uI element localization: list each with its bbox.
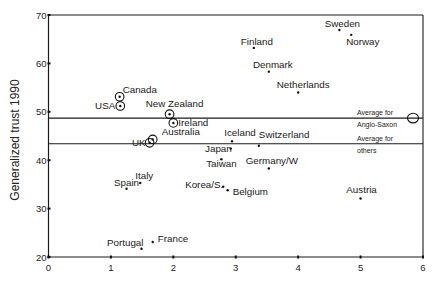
point-marker xyxy=(148,142,150,144)
point-marker xyxy=(268,167,270,169)
point-marker xyxy=(125,188,127,190)
point-label: France xyxy=(158,233,189,244)
x-tick-mark xyxy=(235,256,237,259)
point-marker xyxy=(168,113,170,115)
point-uk: UK xyxy=(132,137,154,148)
point-germany-w: Germany/W xyxy=(246,155,299,169)
x-tick-label: 3 xyxy=(233,262,238,273)
reference-label-others-line1: Average for xyxy=(357,135,394,143)
point-marker xyxy=(118,96,120,98)
y-tick-mark xyxy=(48,208,51,210)
point-label: Germany/W xyxy=(246,155,299,166)
y-tick-mark xyxy=(48,256,51,258)
point-sweden: Sweden xyxy=(325,18,360,31)
point-marker xyxy=(152,241,154,243)
y-tick-label: 60 xyxy=(36,58,47,69)
y-tick-label: 20 xyxy=(36,252,47,263)
point-france: France xyxy=(152,233,189,244)
point-label: Taiwan xyxy=(206,158,237,169)
y-tick-mark xyxy=(48,62,51,64)
x-tick-mark xyxy=(422,256,424,259)
data-points: SwedenNorwayFinlandDenmarkNetherlandsCan… xyxy=(95,18,379,250)
y-tick-label: 70 xyxy=(36,10,47,21)
point-austria: Austria xyxy=(346,184,377,199)
point-marker xyxy=(268,70,270,72)
x-tick-label: 5 xyxy=(358,262,363,273)
reference-label-anglo-saxon-line2: Anglo-Saxon xyxy=(357,121,397,129)
point-marker xyxy=(226,189,228,191)
point-netherlands: Netherlands xyxy=(277,79,330,93)
point-marker xyxy=(258,144,260,146)
point-japan: Japan xyxy=(205,143,232,154)
y-tick-label: 40 xyxy=(36,155,47,166)
point-iceland: Iceland xyxy=(224,127,256,142)
point-label: Canada xyxy=(123,84,158,95)
point-marker xyxy=(359,197,361,199)
point-marker xyxy=(139,182,141,184)
point-label: Austria xyxy=(346,184,377,195)
point-label: Netherlands xyxy=(277,79,330,90)
reference-label-others-line2: others xyxy=(357,147,377,154)
x-tick-label: 4 xyxy=(296,262,301,273)
x-tick-label: 6 xyxy=(420,262,425,273)
point-label: Denmark xyxy=(253,59,293,70)
point-label: Italy xyxy=(135,170,153,181)
scatter-chart: 0123456203040506070 Average forAnglo-Sax… xyxy=(0,0,434,285)
point-label: Japan xyxy=(205,143,232,154)
point-belgium: Belgium xyxy=(226,186,268,197)
reference-label-anglo-saxon-line1: Average for xyxy=(357,109,394,117)
point-finland: Finland xyxy=(241,36,273,49)
y-tick-label: 30 xyxy=(36,203,47,214)
point-label: UK xyxy=(132,137,146,148)
point-taiwan: Taiwan xyxy=(206,158,237,169)
point-label: Sweden xyxy=(325,18,360,29)
y-tick-mark xyxy=(48,159,51,161)
point-norway: Norway xyxy=(346,34,379,47)
x-tick-label: 1 xyxy=(108,262,113,273)
point-portugal: Portugal xyxy=(107,237,144,250)
point-usa: USA xyxy=(95,100,124,111)
point-label: Norway xyxy=(346,36,379,47)
x-tick-mark xyxy=(360,256,362,259)
point-australia: Australia xyxy=(148,126,200,143)
point-label: Australia xyxy=(162,126,201,137)
point-label: Belgium xyxy=(233,186,268,197)
point-label: New Zealand xyxy=(146,98,204,109)
point-label: Switzerland xyxy=(259,129,310,140)
point-marker xyxy=(253,47,255,49)
point-marker xyxy=(119,105,121,107)
point-korea-s: Korea/S. xyxy=(185,179,224,190)
y-tick-mark xyxy=(48,111,51,113)
x-tick-label: 2 xyxy=(171,262,176,273)
point-label: Portugal xyxy=(107,237,144,248)
y-axis-title: Generalized trust 1990 xyxy=(8,79,22,201)
point-denmark: Denmark xyxy=(253,59,293,73)
x-tick-mark xyxy=(172,256,174,259)
point-label: Iceland xyxy=(224,127,256,138)
x-tick-mark xyxy=(297,256,299,259)
point-label: USA xyxy=(95,100,116,111)
chart-svg: 0123456203040506070 Average forAnglo-Sax… xyxy=(0,0,434,285)
point-new-zealand: New Zealand xyxy=(146,98,204,118)
point-marker xyxy=(140,248,142,250)
y-tick-label: 50 xyxy=(36,106,47,117)
y-tick-mark xyxy=(48,14,51,16)
point-marker xyxy=(172,122,174,124)
point-label: Finland xyxy=(241,36,273,47)
point-label: Korea/S. xyxy=(185,179,223,190)
x-tick-label: 0 xyxy=(46,262,51,273)
x-tick-mark xyxy=(110,256,112,259)
point-marker xyxy=(338,29,340,31)
point-marker xyxy=(297,91,299,93)
